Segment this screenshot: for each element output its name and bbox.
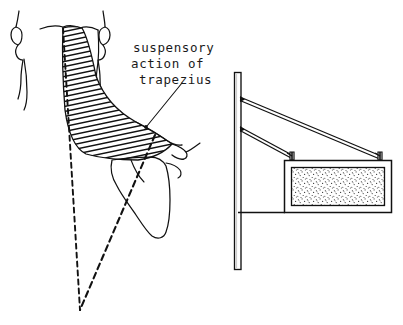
vertical-post [235,73,242,270]
figure-root: suspensory action of trapezius [0,0,403,325]
annotation-line-3: trapezius [139,72,212,87]
sign-panel-stippled [292,168,385,206]
figure-canvas: suspensory action of trapezius [0,0,403,325]
annotation-line-1: suspensory [133,40,214,55]
annotation-label: suspensory action of trapezius [131,40,214,87]
annotation-line-2: action of [131,56,204,71]
